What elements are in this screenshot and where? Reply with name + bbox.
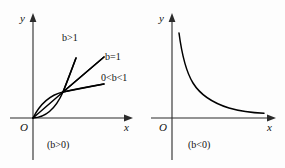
origin-label-right: O (159, 121, 167, 133)
y-axis-label-right: y (158, 12, 164, 24)
y-axis-left (30, 13, 37, 160)
power-function-figure: y x O b>1 b=1 0<b<1 (b>0) (0, 0, 285, 168)
caption-left: (b>0) (47, 139, 69, 151)
caption-right: (b<0) (188, 139, 210, 151)
x-axis-right (151, 115, 276, 122)
curve-label-b-between-0-and-1: 0<b<1 (101, 72, 127, 83)
leader-line-b-between (63, 84, 104, 92)
y-axis-arrow-icon (169, 13, 176, 22)
x-axis-label-left: x (123, 121, 129, 133)
curve-b-between-0-and-1 (33, 84, 104, 118)
curve-b-negative (179, 33, 264, 113)
x-axis-label-right: x (266, 121, 272, 133)
curve-label-b-equals-1: b=1 (105, 51, 121, 62)
curve-label-b-greater-than-1: b>1 (62, 32, 78, 43)
y-axis-label-left: y (19, 12, 25, 24)
origin-label-left: O (20, 121, 28, 133)
curve-b-greater-than-1 (33, 58, 76, 118)
panel-b-positive: y x O b>1 b=1 0<b<1 (b>0) (0, 0, 143, 168)
x-axis-left (10, 115, 133, 122)
panel-b-negative: y x O (b<0) (143, 0, 285, 168)
y-axis-right (169, 13, 176, 160)
y-axis-arrow-icon (30, 13, 37, 22)
